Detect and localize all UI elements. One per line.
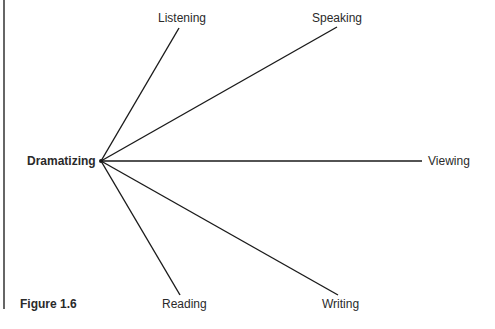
spoke-line-speaking bbox=[101, 27, 337, 161]
spoke-label-reading: Reading bbox=[162, 297, 207, 311]
figure-caption: Figure 1.6 bbox=[20, 297, 77, 311]
spoke-line-writing bbox=[101, 161, 338, 295]
spoke-label-viewing: Viewing bbox=[428, 154, 470, 168]
spoke-label-listening: Listening bbox=[158, 11, 206, 25]
spoke-label-writing: Writing bbox=[322, 297, 359, 311]
center-node bbox=[99, 159, 103, 163]
spoke-line-listening bbox=[101, 28, 179, 161]
center-label-dramatizing: Dramatizing bbox=[27, 154, 96, 168]
spoke-line-reading bbox=[101, 161, 180, 295]
spoke-label-speaking: Speaking bbox=[312, 11, 362, 25]
